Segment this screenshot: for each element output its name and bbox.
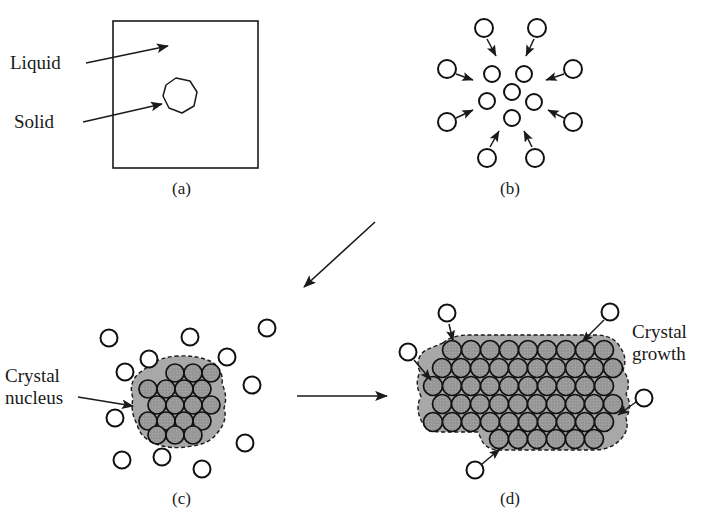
caption-a: (a) (172, 179, 191, 198)
free-particle (117, 364, 134, 381)
packed-particle (433, 359, 452, 378)
packed-particle (500, 377, 519, 396)
caption-c: (c) (172, 489, 191, 508)
packed-particle (462, 413, 481, 432)
packed-particle (595, 377, 614, 396)
packed-particle (184, 364, 202, 382)
packed-particle (462, 341, 481, 360)
packed-particle (585, 359, 604, 378)
packed-particle (139, 380, 157, 398)
packed-particle (566, 430, 585, 449)
packed-particle (443, 377, 462, 396)
packed-particle (490, 395, 509, 414)
packed-particle (557, 377, 576, 396)
packed-particle (481, 341, 500, 360)
packed-particle (166, 426, 184, 444)
attaching-particle (439, 305, 456, 322)
figure-canvas: Liquid Solid (a) (0, 0, 702, 526)
packed-particle (433, 395, 452, 414)
packed-particle (547, 430, 566, 449)
packed-particle (576, 377, 595, 396)
incoming-particle (528, 19, 546, 37)
free-particle (194, 461, 211, 478)
cluster-particle (516, 66, 532, 82)
packed-particle (471, 359, 490, 378)
packed-particle (202, 364, 220, 382)
crystal-nucleus-label-line1: Crystal (5, 365, 60, 386)
packed-particle (462, 377, 481, 396)
packed-particle (509, 359, 528, 378)
packed-particle (547, 395, 566, 414)
attaching-particle (636, 390, 653, 407)
packed-particle (481, 413, 500, 432)
solid-label: Solid (14, 111, 55, 132)
packed-particle (538, 377, 557, 396)
packed-particle (166, 396, 184, 414)
free-particle (107, 410, 124, 427)
packed-particle (557, 413, 576, 432)
packed-particle (595, 341, 614, 360)
incoming-particle (564, 60, 582, 78)
packed-particle (604, 359, 623, 378)
packed-particle (481, 377, 500, 396)
packed-particle (157, 380, 175, 398)
cluster-particle (484, 66, 500, 82)
crystallization-figure: Liquid Solid (a) (0, 0, 702, 526)
packed-particle (452, 359, 471, 378)
attaching-particle (400, 344, 417, 361)
packed-particle (538, 413, 557, 432)
incoming-particle (478, 149, 496, 167)
packed-particle (500, 341, 519, 360)
packed-particle (585, 430, 604, 449)
packed-particle (500, 413, 519, 432)
packed-particle (424, 413, 443, 432)
packed-particle (148, 426, 166, 444)
packed-particle (490, 430, 509, 449)
incoming-particle (526, 149, 544, 167)
crystal-growth-label-line1: Crystal (632, 321, 687, 342)
packed-particle (519, 413, 538, 432)
caption-b: (b) (500, 179, 520, 198)
packed-particle (509, 395, 528, 414)
packed-particle (424, 377, 443, 396)
solid-nucleus-blob (163, 78, 197, 113)
packed-particle (557, 341, 576, 360)
packed-particle (452, 395, 471, 414)
caption-d: (d) (500, 489, 520, 508)
cluster-particle (526, 94, 542, 110)
packed-particle (538, 341, 557, 360)
packed-particle (576, 341, 595, 360)
packed-particle (519, 377, 538, 396)
liquid-label: Liquid (10, 52, 61, 73)
packed-particle (443, 413, 462, 432)
cluster-particle (504, 84, 520, 100)
packed-particle (566, 395, 585, 414)
packed-particle (490, 359, 509, 378)
free-particle (141, 351, 158, 368)
packed-particle (519, 341, 538, 360)
free-particle (244, 377, 261, 394)
free-particle (101, 330, 118, 347)
packed-particle (166, 364, 184, 382)
packed-particle (443, 341, 462, 360)
attaching-particle (467, 462, 484, 479)
incoming-particle (564, 113, 582, 131)
packed-particle (175, 380, 193, 398)
crystal-nucleus-label-line2: nucleus (5, 387, 63, 408)
free-particle (259, 320, 276, 337)
packed-particle (528, 430, 547, 449)
packed-particle (604, 395, 623, 414)
packed-particle (184, 396, 202, 414)
free-particle (237, 435, 254, 452)
crystal-growth-label-line2: growth (632, 343, 686, 364)
packed-particle (193, 380, 211, 398)
packed-particle (547, 359, 566, 378)
packed-particle (528, 395, 547, 414)
packed-particle (528, 359, 547, 378)
incoming-particle (438, 60, 456, 78)
packed-particle (595, 413, 614, 432)
free-particle (182, 329, 199, 346)
packed-particle (509, 430, 528, 449)
free-particle (114, 452, 131, 469)
cluster-particle (479, 93, 495, 109)
